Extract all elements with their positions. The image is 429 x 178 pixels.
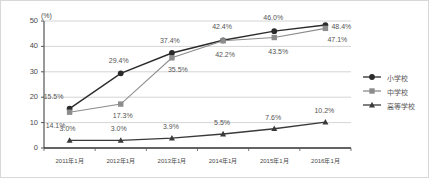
data-label-s1-2: 35.5%	[158, 66, 198, 73]
data-point-marker-circle	[169, 50, 175, 56]
data-label-s0-4: 46.0%	[253, 14, 293, 21]
chart-figure: (%) 010203040502011年1月2012年1月2013年1月2014…	[0, 0, 429, 178]
data-label-s0-1: 29.4%	[99, 57, 139, 64]
x-axis-tick-label: 2015年1月	[246, 156, 302, 165]
y-axis-tick-label: 50	[24, 16, 38, 25]
data-point-marker-square	[220, 38, 225, 43]
data-label-s2-0: 3.0%	[48, 125, 88, 132]
data-point-marker-circle	[118, 70, 124, 76]
y-axis-tick-label: 0	[24, 143, 38, 152]
data-point-marker-square	[169, 55, 174, 60]
data-label-s1-3: 42.2%	[205, 51, 245, 58]
y-axis-tick-label: 30	[24, 67, 38, 76]
data-point-marker-square	[67, 109, 72, 114]
x-axis-tick-label: 2013年1月	[144, 156, 200, 165]
data-label-s0-0: 15.5%	[34, 93, 74, 100]
data-point-marker-square	[272, 35, 277, 40]
data-point-marker-circle	[271, 28, 277, 34]
legend-marker-circle	[369, 74, 375, 80]
data-label-s2-4: 7.6%	[253, 114, 293, 121]
data-label-s0-3: 42.4%	[202, 23, 242, 30]
data-label-s1-5: 47.1%	[317, 36, 357, 43]
legend-marker-square	[369, 88, 374, 93]
data-label-s1-4: 43.5%	[258, 48, 298, 55]
data-label-s2-5: 10.2%	[304, 107, 344, 114]
data-label-s2-1: 3.0%	[99, 125, 139, 132]
x-axis-tick-label: 2012年1月	[93, 156, 149, 165]
y-axis-tick-label: 40	[24, 41, 38, 50]
data-point-marker-square	[118, 101, 123, 106]
data-label-s0-5: 48.4%	[321, 23, 361, 30]
data-label-s0-2: 37.4%	[150, 37, 190, 44]
data-label-s2-2: 3.9%	[151, 123, 191, 130]
x-axis-tick-label: 2016年1月	[297, 156, 353, 165]
legend-label-2: 高等学校	[387, 101, 415, 111]
data-label-s2-3: 5.5%	[202, 119, 242, 126]
legend-label-1: 中学校	[387, 87, 408, 97]
x-axis-tick-label: 2014年1月	[195, 156, 251, 165]
x-axis-tick-label: 2011年1月	[42, 156, 98, 165]
legend-label-0: 小学校	[387, 73, 408, 83]
data-label-s1-1: 17.3%	[103, 112, 143, 119]
